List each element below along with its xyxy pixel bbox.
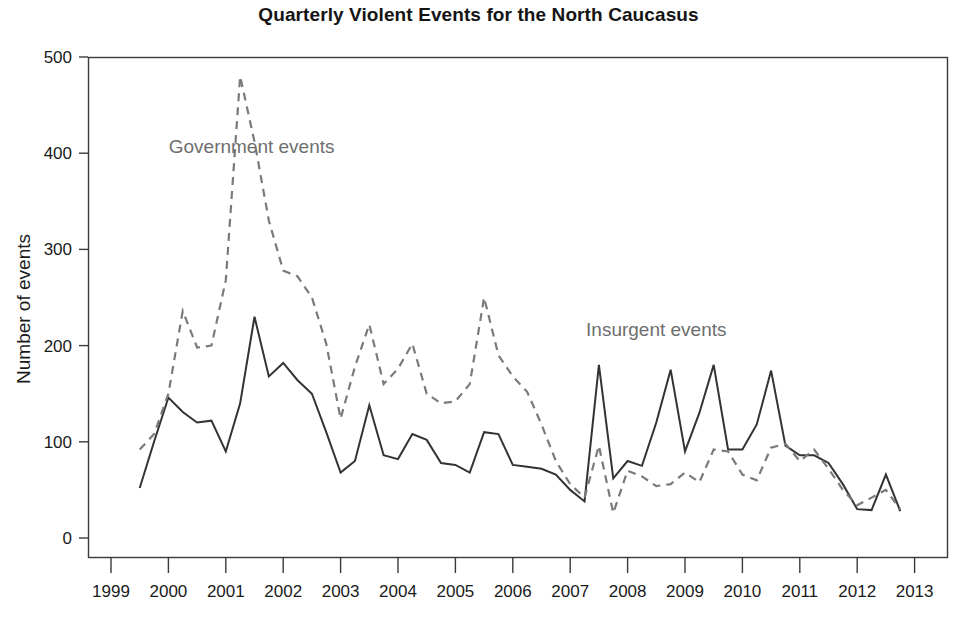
series-annotation-government-events: Government events xyxy=(169,136,335,157)
x-tick-label: 2012 xyxy=(838,582,876,601)
x-tick-label: 2000 xyxy=(149,582,187,601)
y-axis-ticks: 0100200300400500 xyxy=(44,48,88,548)
x-tick-label: 1999 xyxy=(92,582,130,601)
x-tick-label: 2004 xyxy=(379,582,417,601)
x-tick-label: 2008 xyxy=(609,582,647,601)
y-tick-label: 100 xyxy=(44,433,72,452)
series-line-insurgent-events xyxy=(140,317,901,511)
x-tick-label: 2001 xyxy=(207,582,245,601)
series-annotations: Insurgent eventsGovernment events xyxy=(169,136,727,340)
plot-frame xyxy=(89,58,948,558)
x-tick-label: 2011 xyxy=(782,582,819,601)
x-tick-label: 2013 xyxy=(896,582,934,601)
x-tick-label: 2007 xyxy=(551,582,589,601)
chart-figure: Quarterly Violent Events for the North C… xyxy=(0,0,957,627)
x-tick-label: 2009 xyxy=(666,582,704,601)
x-tick-label: 2006 xyxy=(494,582,532,601)
x-axis-ticks: 1999200020012002200320042005200620072008… xyxy=(92,558,933,601)
series-annotation-insurgent-events: Insurgent events xyxy=(586,319,726,340)
x-tick-label: 2005 xyxy=(436,582,474,601)
y-tick-label: 0 xyxy=(63,529,72,548)
plot-area: 0100200300400500 19992000200120022003200… xyxy=(0,0,957,627)
y-tick-label: 200 xyxy=(44,337,72,356)
x-tick-label: 2003 xyxy=(322,582,360,601)
y-tick-label: 500 xyxy=(44,48,72,67)
y-tick-label: 400 xyxy=(44,144,72,163)
x-tick-label: 2002 xyxy=(264,582,302,601)
y-tick-label: 300 xyxy=(44,240,72,259)
x-tick-label: 2010 xyxy=(723,582,761,601)
